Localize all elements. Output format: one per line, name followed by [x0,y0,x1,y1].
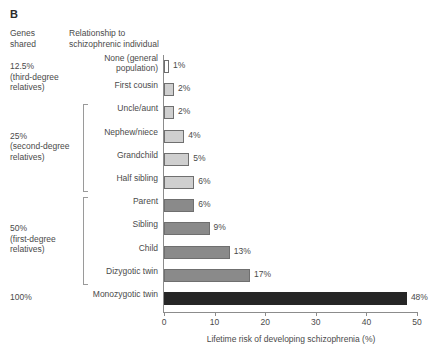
bar-row: Uncle/aunt2% [0,103,430,124]
bar [164,60,169,73]
bar [164,83,174,96]
x-tick-label: 0 [152,317,176,327]
bar [164,199,194,212]
bar-value-label: 2% [178,105,190,118]
group-label-identical: 100% [10,292,72,303]
bar [164,176,194,189]
group-label-second-degree: 25% (second-degree relatives) [10,131,72,163]
bar-value-label: 5% [193,152,205,165]
group-label-third-degree: 12.5% (third-degree relatives) [10,61,72,93]
bar-row: Parent6% [0,196,430,217]
bar-value-label: 4% [188,129,200,142]
bar-value-label: 6% [198,175,210,188]
bar-row: Dizygotic twin17% [0,266,430,287]
x-tick-label: 50 [405,317,429,327]
bar-value-label: 6% [198,198,210,211]
x-tick-label: 30 [304,317,328,327]
x-tick-label: 40 [354,317,378,327]
bar-value-label: 9% [214,221,226,234]
x-axis-line [163,312,418,313]
x-tick [215,312,216,316]
bar [164,269,250,282]
x-tick [417,312,418,316]
bar [164,153,189,166]
bar-value-label: 17% [254,268,271,281]
x-tick [265,312,266,316]
x-tick [366,312,367,316]
x-tick [316,312,317,316]
bar [164,246,230,259]
group-label-first-degree: 50% (first-degree relatives) [10,223,72,255]
bar [164,130,184,143]
bar [164,222,210,235]
x-tick [164,312,165,316]
x-axis-label: Lifetime risk of developing schizophreni… [163,334,419,344]
plot-area: 01020304050 None (general population)1%F… [0,0,430,354]
x-tick-label: 10 [203,317,227,327]
x-tick-label: 20 [253,317,277,327]
bar [164,292,407,305]
bar [164,106,174,119]
bar-value-label: 13% [234,245,251,258]
bar-row: Half sibling6% [0,173,430,194]
bar-value-label: 48% [411,291,428,304]
bar-value-label: 2% [178,82,190,95]
bar-value-label: 1% [173,59,185,72]
group-bracket-first-degree [83,197,88,285]
group-bracket-second-degree [83,104,88,192]
figure-panel-b: B Genes shared Relationship to schizophr… [0,0,430,354]
